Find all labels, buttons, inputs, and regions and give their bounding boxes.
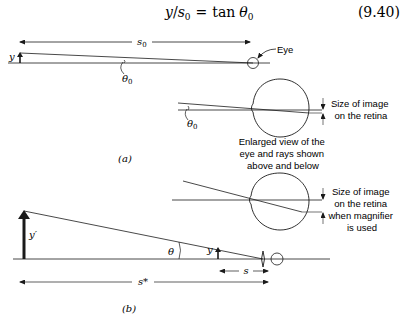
enlarged-view-caption: Enlarged view of the eye and rays shown … bbox=[239, 136, 328, 171]
s-label-b: s bbox=[243, 265, 248, 276]
s-star-label: s* bbox=[138, 276, 148, 287]
eye-pointer-arrow bbox=[258, 49, 276, 58]
eq-denom-sub: 0 bbox=[185, 12, 191, 22]
eyeball-b bbox=[250, 173, 310, 230]
panel-label-b: (b) bbox=[122, 303, 136, 314]
eq-equals: = bbox=[196, 4, 208, 20]
ray-enlarged-a bbox=[178, 103, 309, 113]
eyeball-a bbox=[252, 79, 310, 137]
angle-arc-a bbox=[124, 60, 125, 63]
s0-label: s0 bbox=[137, 36, 147, 49]
retina-caption-b: Size of image on the retina when magnifi… bbox=[327, 186, 395, 233]
figure-b-enlarged-eye: Size of image on the retina when magnifi… bbox=[172, 173, 396, 233]
equation-number: (9.40) bbox=[358, 4, 400, 20]
object-label-b: y bbox=[206, 244, 213, 255]
theta0-label-a: θ0 bbox=[122, 73, 133, 86]
figure-b-ray-diagram: y′ θ y s s* (b) bbox=[13, 210, 330, 314]
angle-arc-enlarged-a bbox=[188, 106, 189, 110]
figure-a-ray-diagram: s0 y θ0 Eye bbox=[8, 36, 293, 86]
object-label-a: y bbox=[8, 51, 15, 62]
panel-label-a: (a) bbox=[118, 153, 132, 164]
ray-enlarged-b bbox=[183, 181, 302, 212]
retina-caption-a: Size of image on the retina bbox=[331, 98, 391, 121]
eq-func: tan bbox=[212, 4, 235, 20]
equation: y/s0=tanθ0 (9.40) bbox=[164, 4, 400, 22]
eq-angle-sub: 0 bbox=[248, 12, 254, 22]
theta0-label-enlarged: θ0 bbox=[187, 118, 198, 131]
ray-b bbox=[24, 211, 263, 259]
eye-label: Eye bbox=[277, 44, 293, 55]
theta-label-b: θ bbox=[168, 246, 174, 257]
figure-a-enlarged-eye: θ0 Size of image on the retina Enlarged … bbox=[118, 79, 391, 171]
theta-arc-b bbox=[179, 242, 181, 259]
eq-denom-var: s bbox=[178, 4, 185, 20]
svg-text:y/s0=tanθ0: y/s0=tanθ0 bbox=[164, 4, 254, 22]
image-label-b: y′ bbox=[28, 229, 38, 240]
magnifier-figure: y/s0=tanθ0 (9.40) s0 y θ0 Eye θ0 bbox=[0, 0, 405, 328]
ray-a bbox=[20, 53, 253, 63]
